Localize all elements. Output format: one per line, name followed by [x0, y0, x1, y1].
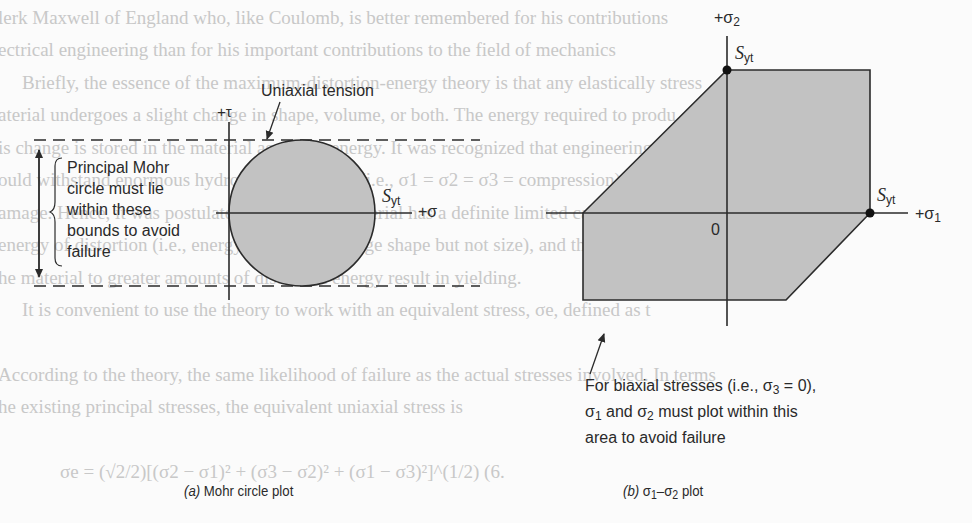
origin-label: 0 [711, 222, 720, 238]
caption-b-text: –σ [657, 482, 672, 499]
sigma-axis-label: +σ [418, 204, 437, 220]
tau-axis-label: +τ [217, 104, 232, 119]
caption-a-text: Mohr circle plot [200, 482, 293, 499]
syt-symbol: S [382, 186, 391, 206]
note-text: must plot within this [654, 403, 798, 420]
sigma2-axis-label: +σ2 [714, 10, 740, 28]
syt-subscript: yt [391, 194, 400, 208]
syt-subscript: yt [886, 193, 895, 207]
note-text: = 0), [779, 377, 816, 394]
biaxial-note: For biaxial stresses (i.e., σ3 = 0), σ1 … [585, 375, 945, 448]
syt-symbol: S [735, 43, 744, 63]
syt-label-top: Syt [735, 44, 753, 64]
sigma1-sigma2-panel [546, 36, 908, 374]
syt-point-right [866, 209, 875, 218]
note-subscript: 1 [595, 409, 602, 423]
uniaxial-tension-label: Uniaxial tension [261, 83, 374, 99]
note-text: and σ [602, 403, 647, 420]
biaxial-note-pointer-arrow [590, 334, 604, 374]
syt-point-top [723, 66, 732, 75]
syt-label-a: Syt [382, 187, 400, 207]
caption-b: (b) σ1–σ2 plot [623, 483, 703, 501]
caption-b-text: σ [639, 482, 651, 499]
uniaxial-tension-pointer-arrow [267, 102, 280, 139]
bounds-note-line: bounds to avoid [67, 220, 207, 241]
sigma2-subscript: 2 [733, 15, 740, 29]
syt-label-right: Syt [877, 186, 895, 206]
biaxial-note-line2: σ1 and σ2 must plot within this [585, 401, 945, 427]
syt-symbol: S [877, 185, 886, 205]
bounds-note-line: failure [67, 241, 207, 262]
caption-a: (a) Mohr circle plot [184, 483, 293, 498]
biaxial-note-line1: For biaxial stresses (i.e., σ3 = 0), [585, 375, 945, 401]
bounds-note: Principal Mohr circle must lie within th… [67, 157, 207, 262]
caption-b-text: plot [678, 482, 703, 499]
caption-a-letter: (a) [184, 482, 200, 499]
bounds-note-line: circle must lie [67, 178, 207, 199]
bounds-brace-icon [50, 158, 62, 266]
note-subscript: 2 [647, 409, 654, 423]
syt-subscript: yt [744, 51, 753, 65]
biaxial-note-line3: area to avoid failure [585, 427, 945, 448]
note-text: For biaxial stresses (i.e., σ [585, 377, 773, 394]
bounds-note-line: Principal Mohr [67, 157, 207, 178]
caption-b-letter: (b) [623, 482, 639, 499]
note-text: σ [585, 403, 595, 420]
bounds-note-line: within these [67, 199, 207, 220]
sigma1-axis-label: +σ1 [915, 206, 941, 224]
sigma1-symbol: +σ [915, 205, 934, 222]
sigma1-subscript: 1 [934, 211, 941, 225]
sigma2-symbol: +σ [714, 9, 733, 26]
